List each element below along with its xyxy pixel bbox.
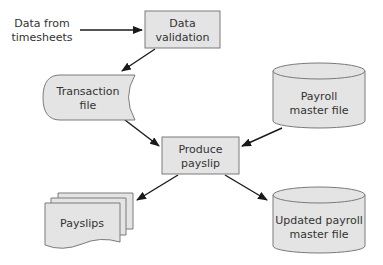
produce-payslip-process: Produce payslip <box>162 137 239 174</box>
edge-produce-to-updated <box>225 175 267 200</box>
edge-produce-to-payslips <box>137 175 178 200</box>
updated-master-label-line2: master file <box>289 228 348 241</box>
produce-label-line1: Produce <box>178 143 222 156</box>
source-label: Data from timesheets <box>11 17 72 44</box>
payroll-flowchart: Data from timesheets Data validation Tra… <box>0 0 383 265</box>
payroll-master-disk: Payroll master file <box>273 63 365 128</box>
edge-master-to-produce <box>242 128 282 146</box>
payslips-documents: Payslips <box>45 193 133 248</box>
validation-label-line1: Data <box>169 17 195 30</box>
validation-process: Data validation <box>145 11 220 48</box>
transaction-label-line1: Transaction <box>56 85 120 98</box>
updated-master-label-line1: Updated payroll <box>275 214 363 227</box>
edge-validation-to-transaction <box>122 49 155 71</box>
payroll-master-label-line2: master file <box>289 104 348 117</box>
source-label-line1: Data from <box>14 17 69 30</box>
transaction-label-line2: file <box>80 99 97 112</box>
validation-label-line2: validation <box>155 31 209 44</box>
edge-transaction-to-produce <box>125 120 159 146</box>
transaction-file: Transaction file <box>43 75 135 120</box>
payslips-label: Payslips <box>60 217 104 230</box>
payroll-master-label-line1: Payroll <box>301 90 338 103</box>
produce-label-line2: payslip <box>181 157 220 170</box>
source-label-line2: timesheets <box>11 31 72 44</box>
updated-master-disk: Updated payroll master file <box>273 187 365 253</box>
